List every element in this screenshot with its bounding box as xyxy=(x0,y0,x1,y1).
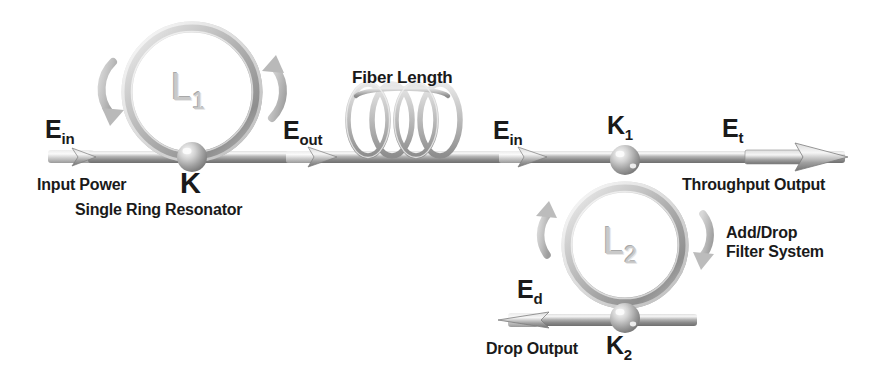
add-drop-line2: Filter System xyxy=(726,243,824,260)
label-k-coupling: K xyxy=(180,169,201,198)
add-drop-line1: Add/Drop xyxy=(726,224,797,241)
label-e-out: Eout xyxy=(283,118,322,147)
figure-canvas: Ein Input Power K Single Ring Resonator … xyxy=(0,0,873,379)
label-ring2: L2 xyxy=(603,222,637,267)
ring1-left-circulation-arrow xyxy=(102,62,124,126)
label-add-drop-filter-system: Add/Drop Filter System xyxy=(726,224,824,262)
label-input-power: Input Power xyxy=(37,176,126,194)
ring2-left-circulation-arrow xyxy=(536,201,557,255)
ring1-right-circulation-arrow xyxy=(262,55,284,118)
label-k1-coupling: K1 xyxy=(607,113,633,142)
ring2-right-circulation-arrow xyxy=(693,214,714,270)
label-e-in-right: Ein xyxy=(493,118,522,147)
coupling-node-k1 xyxy=(610,145,640,175)
label-single-ring-resonator: Single Ring Resonator xyxy=(75,201,242,219)
coupling-node-k2 xyxy=(610,303,640,333)
label-k2-coupling: K2 xyxy=(606,333,632,362)
label-e-d: Ed xyxy=(517,277,542,306)
label-e-t: Et xyxy=(722,116,743,145)
label-e-in-left: Ein xyxy=(45,117,74,146)
e-t-arrow-marker xyxy=(745,143,848,171)
label-drop-output: Drop Output xyxy=(486,340,578,358)
label-throughput-output: Throughput Output xyxy=(682,176,825,194)
fiber-coil xyxy=(348,84,460,156)
e-in-arrow-marker xyxy=(499,147,547,167)
label-fiber-length: Fiber Length xyxy=(352,68,453,87)
e-out-arrow-marker xyxy=(286,147,337,167)
label-ring1: L1 xyxy=(171,68,205,113)
